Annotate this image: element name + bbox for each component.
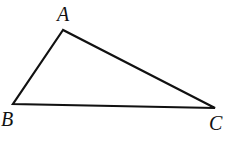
triangle-diagram — [0, 0, 244, 143]
vertex-label-b: B — [1, 109, 13, 129]
vertex-label-a: A — [57, 4, 69, 24]
geometry-figure: A B C — [0, 0, 244, 143]
vertex-label-c: C — [209, 113, 222, 133]
diagram-background — [0, 0, 244, 143]
